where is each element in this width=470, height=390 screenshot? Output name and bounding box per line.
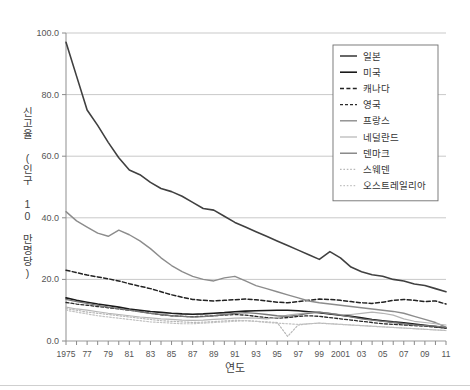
y-axis-tick-label: 60.0 <box>41 151 59 161</box>
y-axis-tick-label: 80.0 <box>41 90 59 100</box>
y-axis-tick-label: 0.0 <box>46 336 59 346</box>
x-axis-title: 연도 <box>0 358 470 376</box>
series-line-2 <box>66 270 446 304</box>
legend-label-3: 영국 <box>363 99 381 110</box>
legend-label-7: 스웨덴 <box>363 164 390 175</box>
legend-label-5: 네덜란드 <box>363 132 399 143</box>
line-chart: 0.020.040.060.080.0100.01975777981838587… <box>0 0 470 390</box>
legend-label-4: 프랑스 <box>363 115 390 126</box>
legend-label-1: 미국 <box>363 67 381 78</box>
legend-label-0: 일본 <box>363 51 381 62</box>
chart-container: 0.020.040.060.080.0100.01975777981838587… <box>0 0 470 390</box>
series-line-6 <box>66 299 446 327</box>
legend-label-6: 덴마크 <box>363 148 390 159</box>
y-axis-tick-label: 40.0 <box>41 213 59 223</box>
legend-label-8: 오스트레일리아 <box>363 180 426 191</box>
y-axis-title-label: 신고율 (인구 10 만명당) <box>21 107 34 279</box>
legend-label-2: 캐나다 <box>363 83 390 94</box>
y-axis-title: 신고율 (인구 10 만명당) <box>14 98 40 288</box>
y-axis-tick-label: 20.0 <box>41 274 59 284</box>
bottom-divider <box>0 385 470 386</box>
y-axis-tick-label: 100.0 <box>36 28 59 38</box>
x-axis-title-label: 연도 <box>225 362 245 374</box>
